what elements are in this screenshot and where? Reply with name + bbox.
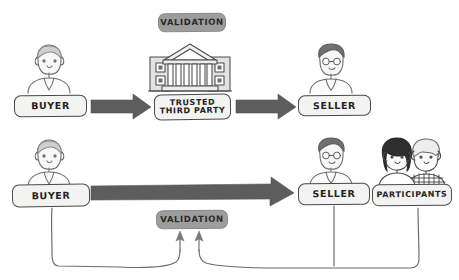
trusted-third-party-label-line2: THIRD PARTY xyxy=(160,107,226,116)
seller-label-top: SELLER xyxy=(298,95,371,117)
arrow-buyer-to-seller-long xyxy=(91,177,294,206)
validation-label-bottom: VALIDATION xyxy=(156,210,228,230)
validation-arrowhead-right xyxy=(195,231,203,251)
person-with-glasses-avatar-icon xyxy=(310,44,352,93)
seller-label-top-text: SELLER xyxy=(313,100,356,110)
arrow-trusted-third-party-to-seller xyxy=(236,94,296,119)
trusted-third-party-label: TRUSTED THIRD PARTY xyxy=(154,93,231,120)
two-people-group-icon xyxy=(379,138,445,187)
participants-label-text: PARTICIPANTS xyxy=(377,190,448,199)
buyer-label-bottom-text: BUYER xyxy=(32,190,71,201)
validation-arrowhead-left xyxy=(176,231,184,251)
validation-label-top-text: VALIDATION xyxy=(160,18,224,27)
seller-label-bottom-text: SELLER xyxy=(313,189,356,199)
bank-building-icon xyxy=(148,44,232,91)
validation-label-bottom-text: VALIDATION xyxy=(160,215,224,224)
validation-connector-lines xyxy=(52,206,419,268)
person-avatar-icon xyxy=(28,140,70,187)
seller-label-bottom: SELLER xyxy=(298,183,370,206)
buyer-label-top: BUYER xyxy=(14,95,87,118)
person-with-glasses-avatar-icon xyxy=(310,138,352,186)
sketch-layer xyxy=(0,0,459,280)
validation-label-top: VALIDATION xyxy=(158,13,226,33)
arrow-buyer-to-trusted-third-party xyxy=(91,94,151,119)
buyer-label-bottom: BUYER xyxy=(12,183,90,207)
participants-label: PARTICIPANTS xyxy=(372,184,452,207)
buyer-label-top-text: BUYER xyxy=(31,101,70,111)
diagram-canvas: VALIDATION BUYER TRUSTED THIRD PARTY SEL… xyxy=(0,0,459,280)
person-avatar-icon xyxy=(28,45,70,93)
